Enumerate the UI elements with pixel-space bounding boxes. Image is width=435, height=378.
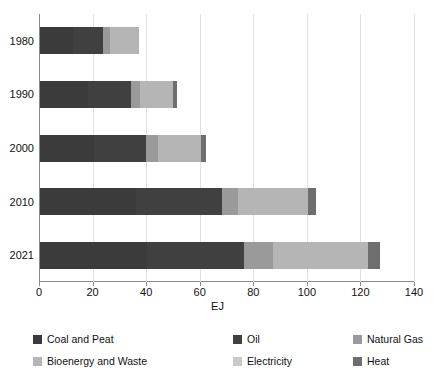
legend-swatch-icon <box>33 357 42 366</box>
legend-item-electricity[interactable]: Electricity <box>233 355 353 367</box>
y-tick-2010: 2010 <box>0 196 34 208</box>
bar-segment-heat[interactable] <box>368 242 380 269</box>
legend-label: Coal and Peat <box>47 333 114 345</box>
chart-legend: Coal and PeatOilNatural GasBioenergy and… <box>33 328 433 372</box>
bar-segment-natural-gas[interactable] <box>131 81 140 108</box>
y-tick-2000: 2000 <box>0 142 34 154</box>
legend-label: Electricity <box>247 355 292 367</box>
x-tick-40: 40 <box>140 286 152 298</box>
legend-swatch-icon <box>233 335 242 344</box>
bar-segment-oil[interactable] <box>147 242 243 269</box>
bar-segment-bioenergy-and-waste[interactable] <box>110 27 139 54</box>
bar-segment-heat[interactable] <box>201 135 206 162</box>
bar-2021[interactable] <box>40 242 380 269</box>
x-tick-80: 80 <box>247 286 259 298</box>
legend-label: Heat <box>367 355 389 367</box>
stacked-bar-chart: 19801990200020102021 020406080100120140 … <box>0 0 435 378</box>
legend-item-coal-and-peat[interactable]: Coal and Peat <box>33 333 233 345</box>
bar-segment-bioenergy-and-waste[interactable] <box>238 188 308 215</box>
legend-label: Oil <box>247 333 260 345</box>
legend-label: Bioenergy and Waste <box>47 355 147 367</box>
x-tick-mark-120 <box>360 282 361 286</box>
x-tick-0: 0 <box>36 286 42 298</box>
x-tick-mark-60 <box>200 282 201 286</box>
legend-item-heat[interactable]: Heat <box>353 355 435 367</box>
legend-swatch-icon <box>33 335 42 344</box>
plot-area <box>39 14 414 282</box>
x-axis-label: EJ <box>0 300 435 312</box>
bar-segment-oil[interactable] <box>136 188 222 215</box>
bar-segment-heat[interactable] <box>308 188 316 215</box>
x-tick-mark-100 <box>307 282 308 286</box>
bar-segment-coal-and-peat[interactable] <box>40 135 94 162</box>
legend-swatch-icon <box>353 335 362 344</box>
bar-segment-heat[interactable] <box>173 81 177 108</box>
bar-segment-bioenergy-and-waste[interactable] <box>140 81 172 108</box>
y-tick-1990: 1990 <box>0 88 34 100</box>
x-tick-20: 20 <box>86 286 98 298</box>
x-tick-mark-20 <box>93 282 94 286</box>
bar-segment-coal-and-peat[interactable] <box>40 188 136 215</box>
x-tick-140: 140 <box>405 286 423 298</box>
x-axis-line <box>39 281 414 282</box>
bar-segment-coal-and-peat[interactable] <box>40 81 88 108</box>
x-tick-100: 100 <box>298 286 316 298</box>
legend-item-natural-gas[interactable]: Natural Gas <box>353 333 435 345</box>
bar-2010[interactable] <box>40 188 316 215</box>
x-tick-mark-140 <box>414 282 415 286</box>
bar-segment-oil[interactable] <box>88 81 131 108</box>
y-tick-2021: 2021 <box>0 249 34 261</box>
bar-segment-natural-gas[interactable] <box>244 242 273 269</box>
legend-swatch-icon <box>233 357 242 366</box>
legend-item-bioenergy-and-waste[interactable]: Bioenergy and Waste <box>33 355 233 367</box>
x-tick-mark-40 <box>146 282 147 286</box>
legend-swatch-icon <box>353 357 362 366</box>
y-axis: 19801990200020102021 <box>0 14 34 282</box>
gridline <box>414 14 415 282</box>
x-tick-mark-0 <box>39 282 40 286</box>
bar-2000[interactable] <box>40 135 206 162</box>
bar-segment-oil[interactable] <box>94 135 146 162</box>
bar-1990[interactable] <box>40 81 177 108</box>
bar-segment-natural-gas[interactable] <box>146 135 158 162</box>
bar-segment-bioenergy-and-waste[interactable] <box>273 242 368 269</box>
bar-segment-oil[interactable] <box>73 27 102 54</box>
bar-segment-coal-and-peat[interactable] <box>40 27 73 54</box>
bar-1980[interactable] <box>40 27 139 54</box>
bar-segment-bioenergy-and-waste[interactable] <box>158 135 201 162</box>
bar-segment-natural-gas[interactable] <box>103 27 110 54</box>
bar-segment-coal-and-peat[interactable] <box>40 242 147 269</box>
bar-segment-natural-gas[interactable] <box>222 188 238 215</box>
legend-item-oil[interactable]: Oil <box>233 333 353 345</box>
legend-label: Natural Gas <box>367 333 423 345</box>
y-tick-1980: 1980 <box>0 35 34 47</box>
x-tick-120: 120 <box>351 286 369 298</box>
x-tick-mark-80 <box>253 282 254 286</box>
x-tick-60: 60 <box>194 286 206 298</box>
